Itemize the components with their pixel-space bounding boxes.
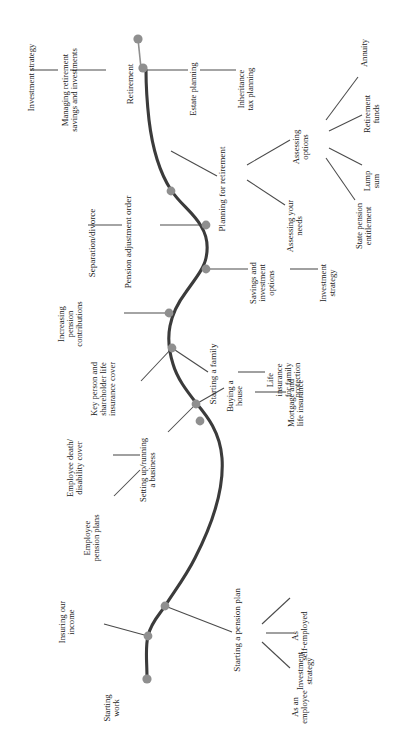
- node-starting-family[interactable]: [168, 344, 177, 353]
- label-separation-divorce: Separation/divorce: [88, 184, 97, 302]
- connector-spine-pensionplan: [165, 606, 232, 632]
- connector-options-annuity: [326, 77, 358, 120]
- node-insuring-income[interactable]: [144, 632, 153, 641]
- label-annuity: Annuity: [360, 18, 369, 88]
- label-pension-adjustment-order: Pension adjustment order: [124, 166, 133, 318]
- connector-spine-planning: [171, 151, 217, 176]
- label-inheritance-tax-planning: Inheritance tax planning: [237, 41, 255, 137]
- node-business[interactable]: [196, 417, 205, 426]
- label-lump-sum: Lump sum: [363, 150, 381, 212]
- label-estate-planning: Estate planning: [189, 41, 198, 137]
- label-increasing-pension-contributions: Increasing pension contributions: [57, 265, 84, 383]
- label-managing-retirement: Managing retirement savings and investme…: [61, 20, 79, 160]
- label-buying-a-house: Buying a house: [226, 360, 244, 432]
- connector-spine-keyperson: [141, 348, 172, 381]
- connector-spine-business: [168, 404, 196, 432]
- connector-pensionplan-selfemp: [262, 598, 290, 624]
- connector-planning-needs: [247, 180, 285, 205]
- connector-spine-insuring: [104, 624, 148, 636]
- node-buying-house[interactable]: [192, 400, 201, 409]
- label-key-person-shareholder: Key person and shareholder life insuranc…: [90, 327, 117, 451]
- label-starting-a-family: Starting a family: [209, 318, 218, 430]
- label-mortgage-life-insurance: Mortgage and life insurance: [287, 354, 305, 452]
- label-employee-pension-plans: Employee pension plans: [83, 487, 101, 589]
- connector-options-statepension: [326, 158, 355, 200]
- node-increasing-pension[interactable]: [165, 309, 174, 318]
- node-pension-adjustment[interactable]: [202, 221, 211, 230]
- connector-spine-family: [172, 348, 208, 372]
- connector-options-funds: [329, 115, 362, 131]
- node-savings-investment[interactable]: [202, 265, 211, 274]
- label-starting-work: Starting work: [103, 674, 121, 742]
- label-setting-up-running-business: Setting up/running a business: [139, 412, 157, 528]
- connector-business-emppension: [114, 470, 140, 496]
- node-planning-retirement[interactable]: [167, 187, 176, 196]
- label-as-self-employed: As self-employed: [291, 588, 309, 684]
- label-investment-strategy-top: Investment strategy: [27, 20, 36, 135]
- label-starting-a-pension-plan: Starting a pension plan: [233, 562, 242, 698]
- life-stage-financial-diagram: FINANCIAL PLANNING FOR LIFE EVENTS: [0, 0, 395, 753]
- node-starting-pension[interactable]: [161, 602, 170, 611]
- node-retirement[interactable]: [138, 63, 147, 72]
- label-insuring-our-income: Insuring our income: [58, 575, 76, 669]
- label-planning-for-retirement: Planning for retirement: [218, 124, 227, 254]
- connector-planning-assessing: [247, 140, 290, 165]
- node-starting-work[interactable]: [142, 674, 151, 683]
- connector-pensionplan-employee: [262, 642, 290, 668]
- label-retirement: Retirement: [126, 40, 135, 128]
- connector-options-lump: [329, 148, 362, 165]
- label-investment-strategy-mid: Investment strategy: [319, 241, 337, 325]
- label-employee-death-disability: Employee death/ disability cover: [66, 412, 84, 524]
- label-savings-investment-options: Savings and investment options: [249, 234, 276, 332]
- label-assessing-options: Assessing options: [292, 101, 310, 193]
